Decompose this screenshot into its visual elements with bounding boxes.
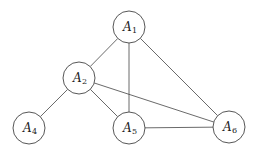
node-a2: A2 <box>63 62 95 94</box>
node-subscript: 2 <box>82 77 87 86</box>
node-label: A <box>122 121 132 135</box>
node-a4: A4 <box>13 112 45 144</box>
node-subscript: 4 <box>32 127 37 136</box>
edge-a2-a5 <box>90 89 117 116</box>
edge-a2-a4 <box>40 89 67 116</box>
node-label: A <box>72 71 82 85</box>
graph-diagram: A1A2A4A5A6 <box>0 0 257 153</box>
node-label: A <box>222 120 232 134</box>
edge-a1-a6 <box>140 38 217 115</box>
node-label: A <box>122 20 132 34</box>
edge-a1-a2 <box>90 38 118 66</box>
node-a6: A6 <box>213 111 245 143</box>
node-a5: A5 <box>113 112 145 144</box>
node-subscript: 6 <box>232 126 237 135</box>
node-subscript: 1 <box>132 26 137 35</box>
edge-a2-a6 <box>94 83 214 122</box>
node-subscript: 5 <box>132 127 137 136</box>
node-a1: A1 <box>113 11 145 43</box>
edge-a5-a6 <box>145 127 213 128</box>
node-label: A <box>22 121 32 135</box>
